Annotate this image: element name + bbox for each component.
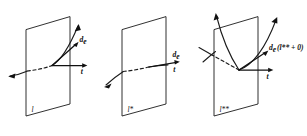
label-plane-panel-3: l** xyxy=(220,105,230,114)
curve-hidden-segment-panel-2 xyxy=(123,67,149,72)
figure-canvas: de t l de t l* xyxy=(0,0,307,136)
curve-hidden-segment-panel-1 xyxy=(27,66,52,72)
label-plane-panel-2: l* xyxy=(128,105,134,114)
curve-hidden-extension-panel-3 xyxy=(199,48,213,56)
vector-de-shaft-panel-3 xyxy=(239,53,265,70)
vector-de-arrowhead-panel-3 xyxy=(262,51,268,56)
label-vector-t-panel-3: t xyxy=(267,72,270,81)
label-de-subscript-panel-2: e xyxy=(176,52,180,61)
label-vector-de-panel-2: de xyxy=(173,50,181,61)
vector-t-arrowhead-panel-3 xyxy=(268,68,273,72)
label-plane-panel-1: l xyxy=(32,105,34,114)
label-de-argument-panel-3: (l** + 0) xyxy=(277,43,304,52)
panel-2-tangential-contact: de t l* xyxy=(100,0,200,136)
curve-left-branch-panel-3 xyxy=(217,16,240,70)
label-vector-de-panel-3: de(l** + 0) xyxy=(269,43,304,54)
label-vector-t-panel-1: t xyxy=(81,67,84,76)
label-de-subscript-panel-1: e xyxy=(83,37,87,46)
curve-backward-arrowhead-panel-1 xyxy=(8,74,15,79)
panel-1-transversal-crossing: de t l xyxy=(0,0,104,136)
curve-incoming-panel-2 xyxy=(106,72,123,85)
vector-t-arrowhead-panel-1 xyxy=(82,63,87,67)
curve-forward-arrowhead-panel-1 xyxy=(75,24,81,32)
plane-outline-panel-2 xyxy=(122,17,166,116)
curve-left-branch-arrowhead-panel-3 xyxy=(214,13,219,20)
panel-3-cusp-reflection: de(l** + 0) t l** xyxy=(196,0,307,136)
label-vector-t-panel-2: t xyxy=(173,65,176,74)
curve-right-branch-arrowhead-panel-3 xyxy=(271,17,277,24)
vector-de-shaft-panel-1 xyxy=(52,44,76,66)
plane-outline-panel-1 xyxy=(26,17,70,116)
label-vector-de-panel-1: de xyxy=(80,35,88,46)
curve-backward-arrowhead-panel-2 xyxy=(104,83,112,88)
